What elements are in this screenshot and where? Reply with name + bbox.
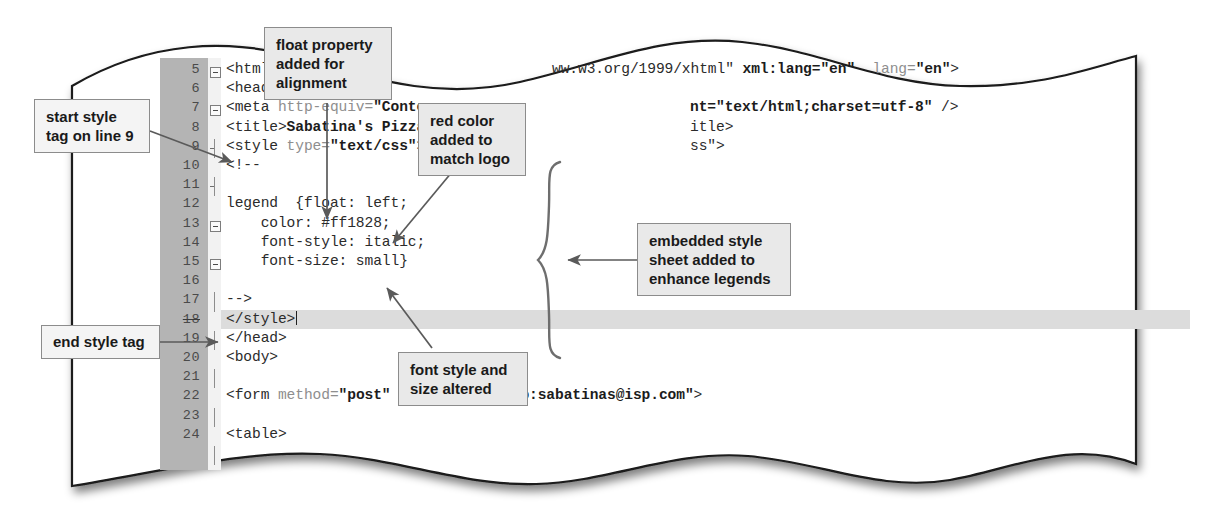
- code-line[interactable]: 10<!--: [160, 156, 1190, 175]
- code-text[interactable]: <meta http-equiv="Conte: [226, 98, 425, 117]
- line-number: 7: [160, 98, 200, 117]
- code-text[interactable]: legend {float: left;: [226, 194, 408, 213]
- line-number: 5: [160, 60, 200, 79]
- line-number: 23: [160, 406, 200, 425]
- line-number: 24: [160, 425, 200, 444]
- fold-collapse-icon[interactable]: [210, 67, 221, 78]
- code-text-continued[interactable]: itle>: [690, 118, 733, 137]
- line-number: 17: [160, 290, 200, 309]
- line-number: 16: [160, 271, 200, 290]
- line-number: 18: [160, 310, 200, 329]
- code-text[interactable]: </style>: [226, 310, 297, 329]
- code-text[interactable]: color: #ff1828;: [226, 214, 391, 233]
- code-text-continued[interactable]: nt="text/html;charset=utf-8" />: [690, 98, 958, 117]
- code-line[interactable]: 7<meta http-equiv="Content="text/html;ch…: [160, 98, 1190, 117]
- code-line[interactable]: 11: [160, 175, 1190, 194]
- line-number: 14: [160, 233, 200, 252]
- line-number: 20: [160, 348, 200, 367]
- callout-end-style-tag: end style tag: [41, 325, 160, 359]
- code-text[interactable]: <!--: [226, 156, 261, 175]
- code-line[interactable]: 24<table>: [160, 425, 1190, 444]
- code-line[interactable]: 12legend {float: left;: [160, 194, 1190, 213]
- active-line-highlight: [221, 310, 1190, 329]
- line-number: 9: [160, 137, 200, 156]
- code-line[interactable]: 18</style>: [160, 310, 1190, 329]
- line-number: 21: [160, 367, 200, 386]
- code-line[interactable]: 20<body>: [160, 348, 1190, 367]
- callout-start-style-tag: start styletag on line 9: [34, 99, 150, 153]
- line-number: 15: [160, 252, 200, 271]
- line-number: 19: [160, 329, 200, 348]
- code-text[interactable]: <table>: [226, 425, 287, 444]
- code-text[interactable]: <html: [226, 60, 269, 79]
- fold-rail-segment: [214, 446, 215, 465]
- code-line[interactable]: 19</head>: [160, 329, 1190, 348]
- code-text[interactable]: <head: [226, 79, 269, 98]
- line-number: 13: [160, 214, 200, 233]
- line-number: 12: [160, 194, 200, 213]
- code-line[interactable]: 9<style type="text/css">ss">: [160, 137, 1190, 156]
- text-cursor: [296, 311, 297, 325]
- code-text[interactable]: <style type="text/css">: [226, 137, 425, 156]
- callout-font-style-size: font style andsize altered: [398, 352, 528, 406]
- code-text[interactable]: font-size: small}: [226, 252, 408, 271]
- code-text[interactable]: </head>: [226, 329, 287, 348]
- line-number: 8: [160, 118, 200, 137]
- code-text[interactable]: <body>: [226, 348, 278, 367]
- code-block-brace: [534, 160, 574, 360]
- callout-red-color: red coloradded tomatch logo: [418, 103, 526, 176]
- figure-stage: 5<htmlww.w3.org/1999/xhtml" xml:lang="en…: [0, 0, 1209, 521]
- code-text[interactable]: <title>Sabatina's Pizza: [226, 118, 425, 137]
- line-number: 11: [160, 175, 200, 194]
- code-text[interactable]: -->: [226, 290, 252, 309]
- line-number: 22: [160, 386, 200, 405]
- callout-float-property: float propertyadded foralignment: [264, 27, 392, 100]
- code-line[interactable]: 23: [160, 406, 1190, 425]
- callout-embedded-sheet: embedded stylesheet added toenhance lege…: [637, 223, 791, 296]
- code-line[interactable]: 22<form method="post" action="mailto:sab…: [160, 386, 1190, 405]
- code-line[interactable]: 8<title>Sabatina's Pizzaitle>: [160, 118, 1190, 137]
- code-text-continued[interactable]: ss">: [690, 137, 725, 156]
- code-text-continued[interactable]: ww.w3.org/1999/xhtml" xml:lang="en" lang…: [552, 60, 959, 79]
- code-line[interactable]: 21: [160, 367, 1190, 386]
- line-number: 6: [160, 79, 200, 98]
- code-text[interactable]: font-style: italic;: [226, 233, 425, 252]
- line-number: 10: [160, 156, 200, 175]
